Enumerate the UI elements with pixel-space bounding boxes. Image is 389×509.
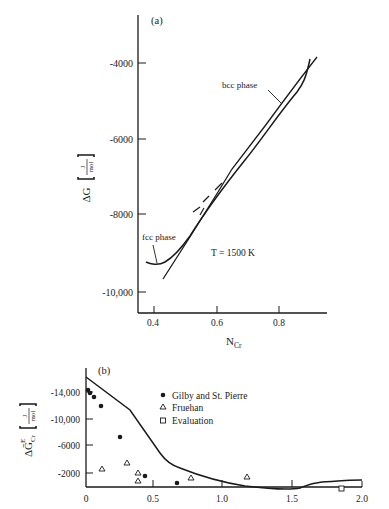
svg-text:ΔḠCrE: ΔḠCrE [19, 434, 37, 457]
data-point [135, 478, 141, 483]
legend-label: Evaluation [172, 416, 213, 426]
svg-text:J: J [21, 414, 29, 417]
data-point [99, 466, 105, 471]
svg-text:J: J [79, 165, 87, 168]
panel-b-ytick-label: -10,000 [51, 415, 81, 425]
panel-a-ytick-label: -6000 [110, 134, 133, 145]
panel-b-xtick-label: 1.5 [286, 494, 298, 504]
panel-a-temperature-label: T = 1500 K [211, 248, 255, 258]
data-point [92, 395, 97, 400]
data-point [244, 474, 250, 479]
panel-b-label: (b) [98, 365, 111, 377]
panel-b-series-evaluation [339, 486, 344, 491]
panel-a-bcc-leader [268, 90, 282, 104]
svg-text:mol: mol [29, 411, 37, 422]
panel-b-xtick-label: 0.5 [147, 494, 159, 504]
panel-b-ytick-label: -6000 [58, 441, 80, 451]
panel-a-bcc-line [163, 57, 317, 279]
data-point [124, 460, 130, 465]
panel-b-y-ticks [86, 392, 93, 473]
data-point [175, 481, 180, 486]
data-point [135, 470, 141, 475]
legend-label: Fruehan [172, 403, 203, 413]
data-point [143, 474, 148, 479]
panel-b-legend: Gilby and St. Pierre Fruehan Evaluation [160, 391, 247, 427]
panel-a-xlabel: NCr [226, 335, 242, 350]
data-point [99, 404, 104, 409]
panel-a-xtick-label: 0.4 [147, 318, 159, 328]
panel-a-xtick-label: 0.8 [273, 318, 285, 328]
panel-a-fcc-label: fcc phase [142, 232, 176, 242]
panel-b-ytick-label: -2000 [58, 469, 80, 479]
panel-b-xtick-label: 2.0 [356, 494, 368, 504]
panel-a-ytick-label: -10,000 [102, 287, 133, 298]
panel-a-label: (a) [151, 15, 163, 27]
legend-marker-open-triangle [160, 404, 166, 409]
figure: -4000 -6000 -8000 -10,000 0.4 0.6 0.8 NC… [0, 0, 389, 509]
panel-a-ylabel: ΔG J mol [78, 155, 95, 203]
panel-a-ytick-label: -8000 [110, 209, 133, 220]
panel-b: -14,000 -10,000 -6000 -2000 0 0.5 1.0 1.… [19, 365, 368, 504]
panel-b-ylabel: ΔḠCrE J mol [19, 404, 37, 457]
panel-b-ytick-label: -14,000 [51, 388, 81, 398]
panel-a-fcc-leader [153, 245, 157, 263]
data-point [188, 475, 194, 480]
legend-marker-filled-circle [161, 393, 166, 398]
svg-text:mol: mol [87, 162, 95, 173]
data-point [118, 435, 123, 440]
panel-a-x-ticks [154, 306, 279, 313]
panel-a-bcc-label: bcc phase [222, 80, 257, 90]
panel-a-ytick-label: -4000 [110, 58, 133, 69]
panel-a: -4000 -6000 -8000 -10,000 0.4 0.6 0.8 NC… [78, 15, 327, 350]
svg-text:ΔG: ΔG [80, 187, 92, 202]
data-point [88, 391, 93, 396]
panel-b-series-fruehan [99, 460, 250, 483]
panel-b-xtick-label: 1.0 [216, 494, 228, 504]
panel-b-xtick-label: 0 [84, 494, 89, 504]
panel-a-y-ticks [138, 63, 146, 292]
panel-a-xtick-label: 0.6 [211, 318, 223, 328]
legend-marker-open-square [161, 418, 166, 423]
legend-label: Gilby and St. Pierre [172, 391, 247, 401]
